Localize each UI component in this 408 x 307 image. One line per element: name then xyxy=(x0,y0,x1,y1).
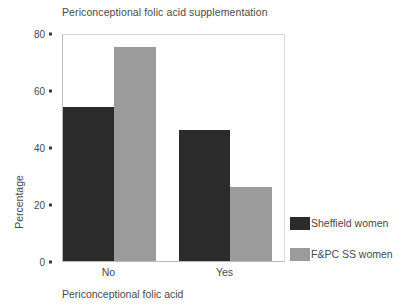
bar-no-f-pc-ss-women xyxy=(114,47,156,261)
legend-swatch-icon xyxy=(290,217,310,230)
x-axis-label: Periconceptional folic acid xyxy=(62,288,183,300)
legend-label: F&PC SS women xyxy=(311,248,393,260)
bar-yes-f-pc-ss-women xyxy=(230,187,272,261)
bar-chart-figure: Periconceptional folic acid supplementat… xyxy=(0,0,408,307)
y-axis: Percentage 020406080 xyxy=(0,0,62,307)
y-tick-mark xyxy=(49,204,52,207)
bars-layer xyxy=(63,35,284,261)
y-tick-mark xyxy=(49,33,52,36)
legend-entry[interactable]: F&PC SS women xyxy=(290,243,408,265)
x-tick-label-yes: Yes xyxy=(216,266,233,278)
x-tick-label-no: No xyxy=(102,266,115,278)
y-tick-label: 20 xyxy=(34,200,45,211)
plot-area xyxy=(62,34,285,262)
y-tick-label: 0 xyxy=(39,257,45,268)
y-tick-mark xyxy=(49,147,52,150)
y-tick-mark xyxy=(49,261,52,264)
chart-legend: Sheffield womenF&PC SS women xyxy=(290,212,408,274)
legend-entry[interactable]: Sheffield women xyxy=(290,212,408,234)
y-tick-label: 60 xyxy=(34,86,45,97)
bar-no-sheffield-women xyxy=(63,107,114,261)
chart-title: Periconceptional folic acid supplementat… xyxy=(62,6,268,18)
legend-label: Sheffield women xyxy=(311,217,388,229)
bar-yes-sheffield-women xyxy=(179,130,230,261)
y-tick-mark xyxy=(49,90,52,93)
y-axis-label: Percentage xyxy=(13,157,25,247)
legend-swatch-icon xyxy=(290,248,310,261)
y-tick-label: 40 xyxy=(34,143,45,154)
y-tick-label: 80 xyxy=(34,29,45,40)
